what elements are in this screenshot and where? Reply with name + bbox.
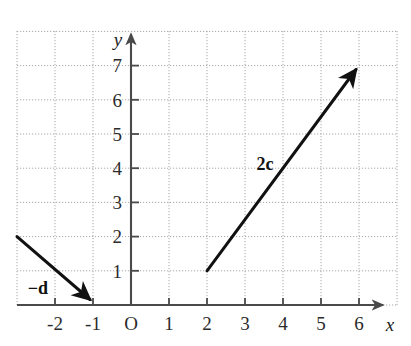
y-axis-label: y (112, 29, 123, 50)
x-tick-label: 4 (278, 313, 288, 334)
y-tick-label: 5 (113, 124, 123, 145)
y-tick-label: 1 (113, 261, 123, 282)
vector-minus-d-label: −d (28, 278, 48, 298)
y-tick-label: 2 (113, 226, 123, 247)
x-tick-labels: -2 -1 1 2 3 4 5 6 (47, 313, 364, 334)
vector-2c-label: 2c (257, 154, 274, 174)
vector-diagram-figure: -2 -1 1 2 3 4 5 6 1 2 3 4 5 6 7 O y x 2c (0, 0, 411, 346)
y-tick-label: 3 (113, 192, 123, 213)
y-tick-label: 4 (113, 158, 123, 179)
x-tick-label: 5 (316, 313, 326, 334)
x-tick-label: 2 (202, 313, 212, 334)
x-tick-label: 3 (240, 313, 250, 334)
x-tick-label: 1 (164, 313, 174, 334)
origin-label: O (124, 313, 138, 334)
x-tick-label: -2 (47, 313, 63, 334)
x-tick-label: -1 (85, 313, 101, 334)
x-tick-label: 6 (354, 313, 364, 334)
y-tick-label: 7 (113, 55, 123, 76)
y-tick-label: 6 (113, 90, 123, 111)
x-axis-label: x (385, 314, 395, 335)
canvas-background (0, 0, 411, 346)
coordinate-plane: -2 -1 1 2 3 4 5 6 1 2 3 4 5 6 7 O y x 2c (0, 0, 411, 346)
